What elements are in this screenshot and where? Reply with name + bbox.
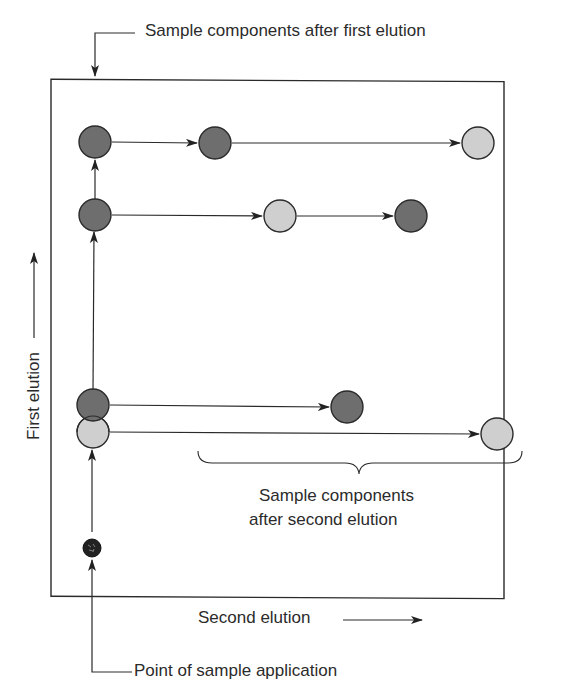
- row2-arrow-a: [112, 215, 262, 216]
- bracket-label-line2: after second elution: [249, 510, 397, 530]
- spot-first-elution-dark-mid: [79, 199, 111, 231]
- top-callout-label: Sample components after first elution: [145, 21, 426, 41]
- first-elution-path-2: [93, 232, 94, 392]
- spot-row3-dark: [331, 391, 363, 423]
- two-dimensional-chromatography-diagram: [0, 0, 587, 699]
- top-callout-leader: [95, 33, 135, 76]
- bracket-label-line1: Sample components: [259, 486, 414, 506]
- row4-arrow: [110, 432, 479, 434]
- origin-spot: [83, 539, 101, 557]
- x-axis-label: Second elution: [198, 608, 310, 628]
- spot-first-elution-dark-top: [79, 126, 111, 158]
- second-elution-bracket: [198, 451, 522, 474]
- spot-row2-dark: [395, 200, 427, 232]
- spot-row4-light: [481, 418, 513, 450]
- row1-arrow-a: [112, 142, 197, 143]
- row3-arrow: [110, 405, 329, 407]
- bottom-callout-leader: [92, 560, 132, 672]
- spot-row1-dark: [199, 127, 231, 159]
- bottom-callout-label: Point of sample application: [134, 661, 337, 681]
- spot-row1-light: [462, 127, 494, 159]
- y-axis-label: First elution: [24, 352, 44, 440]
- spot-row2-light: [264, 200, 296, 232]
